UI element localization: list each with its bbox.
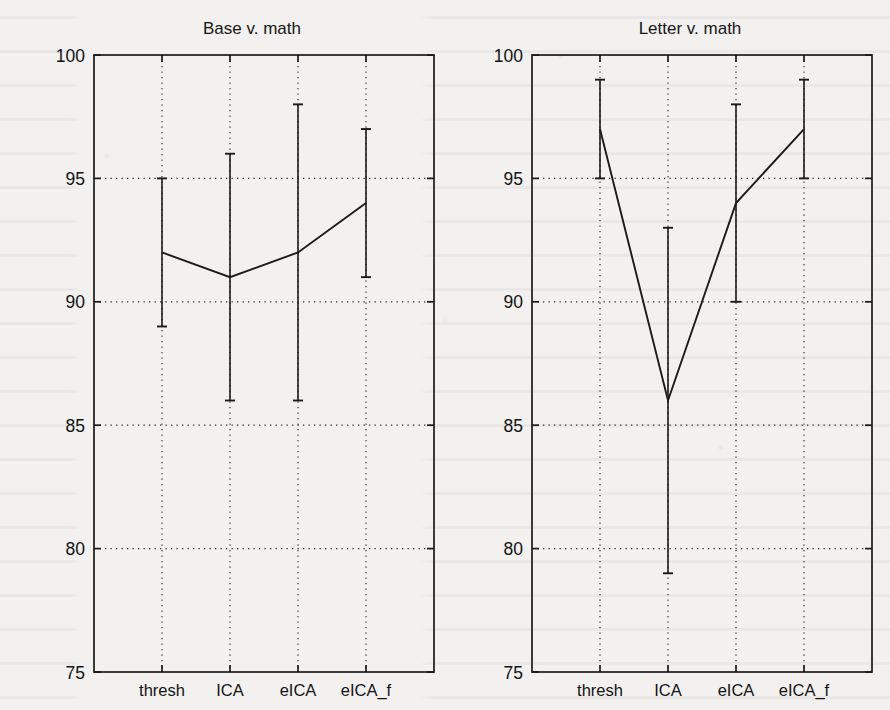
y-tick-label: 75 (66, 663, 85, 683)
y-tick-label: 100 (494, 46, 523, 66)
x-tick-label-ICA: ICA (216, 681, 244, 699)
y-tick-label: 80 (504, 539, 524, 559)
y-tick-label: 85 (504, 416, 523, 436)
y-tick-label: 95 (66, 169, 85, 189)
series-line (162, 203, 366, 277)
y-tick-label: 75 (504, 663, 523, 683)
chart-panel-letter-v-math: Letter v. math 7580859095100threshICAeIC… (490, 0, 890, 710)
y-tick-label: 80 (66, 539, 86, 559)
x-tick-label-eICA: eICA (280, 681, 317, 699)
y-tick-label: 90 (504, 292, 524, 312)
x-tick-label-thresh: thresh (139, 681, 185, 699)
series-line (600, 129, 804, 400)
y-tick-label: 95 (504, 169, 523, 189)
plot-box (532, 55, 872, 672)
x-tick-label-eICA_f: eICA_f (779, 681, 830, 700)
chart-title-left: Base v. math (52, 19, 452, 39)
y-tick-label: 85 (66, 416, 85, 436)
chart-title-right: Letter v. math (490, 19, 890, 39)
chart-panel-base-v-math: Base v. math 7580859095100threshICAeICAe… (52, 0, 452, 710)
x-tick-label-eICA: eICA (718, 681, 755, 699)
y-tick-label: 100 (56, 46, 85, 66)
x-tick-label-eICA_f: eICA_f (341, 681, 392, 700)
chart-canvas-right: 7580859095100threshICAeICAeICA_f (490, 0, 890, 710)
figure: Classificatiion accuracy, % Base v. math… (0, 0, 890, 710)
plot-box (94, 55, 434, 672)
y-tick-label: 90 (66, 292, 86, 312)
x-tick-label-ICA: ICA (654, 681, 682, 699)
x-tick-label-thresh: thresh (577, 681, 623, 699)
chart-canvas-left: 7580859095100threshICAeICAeICA_f (52, 0, 452, 710)
